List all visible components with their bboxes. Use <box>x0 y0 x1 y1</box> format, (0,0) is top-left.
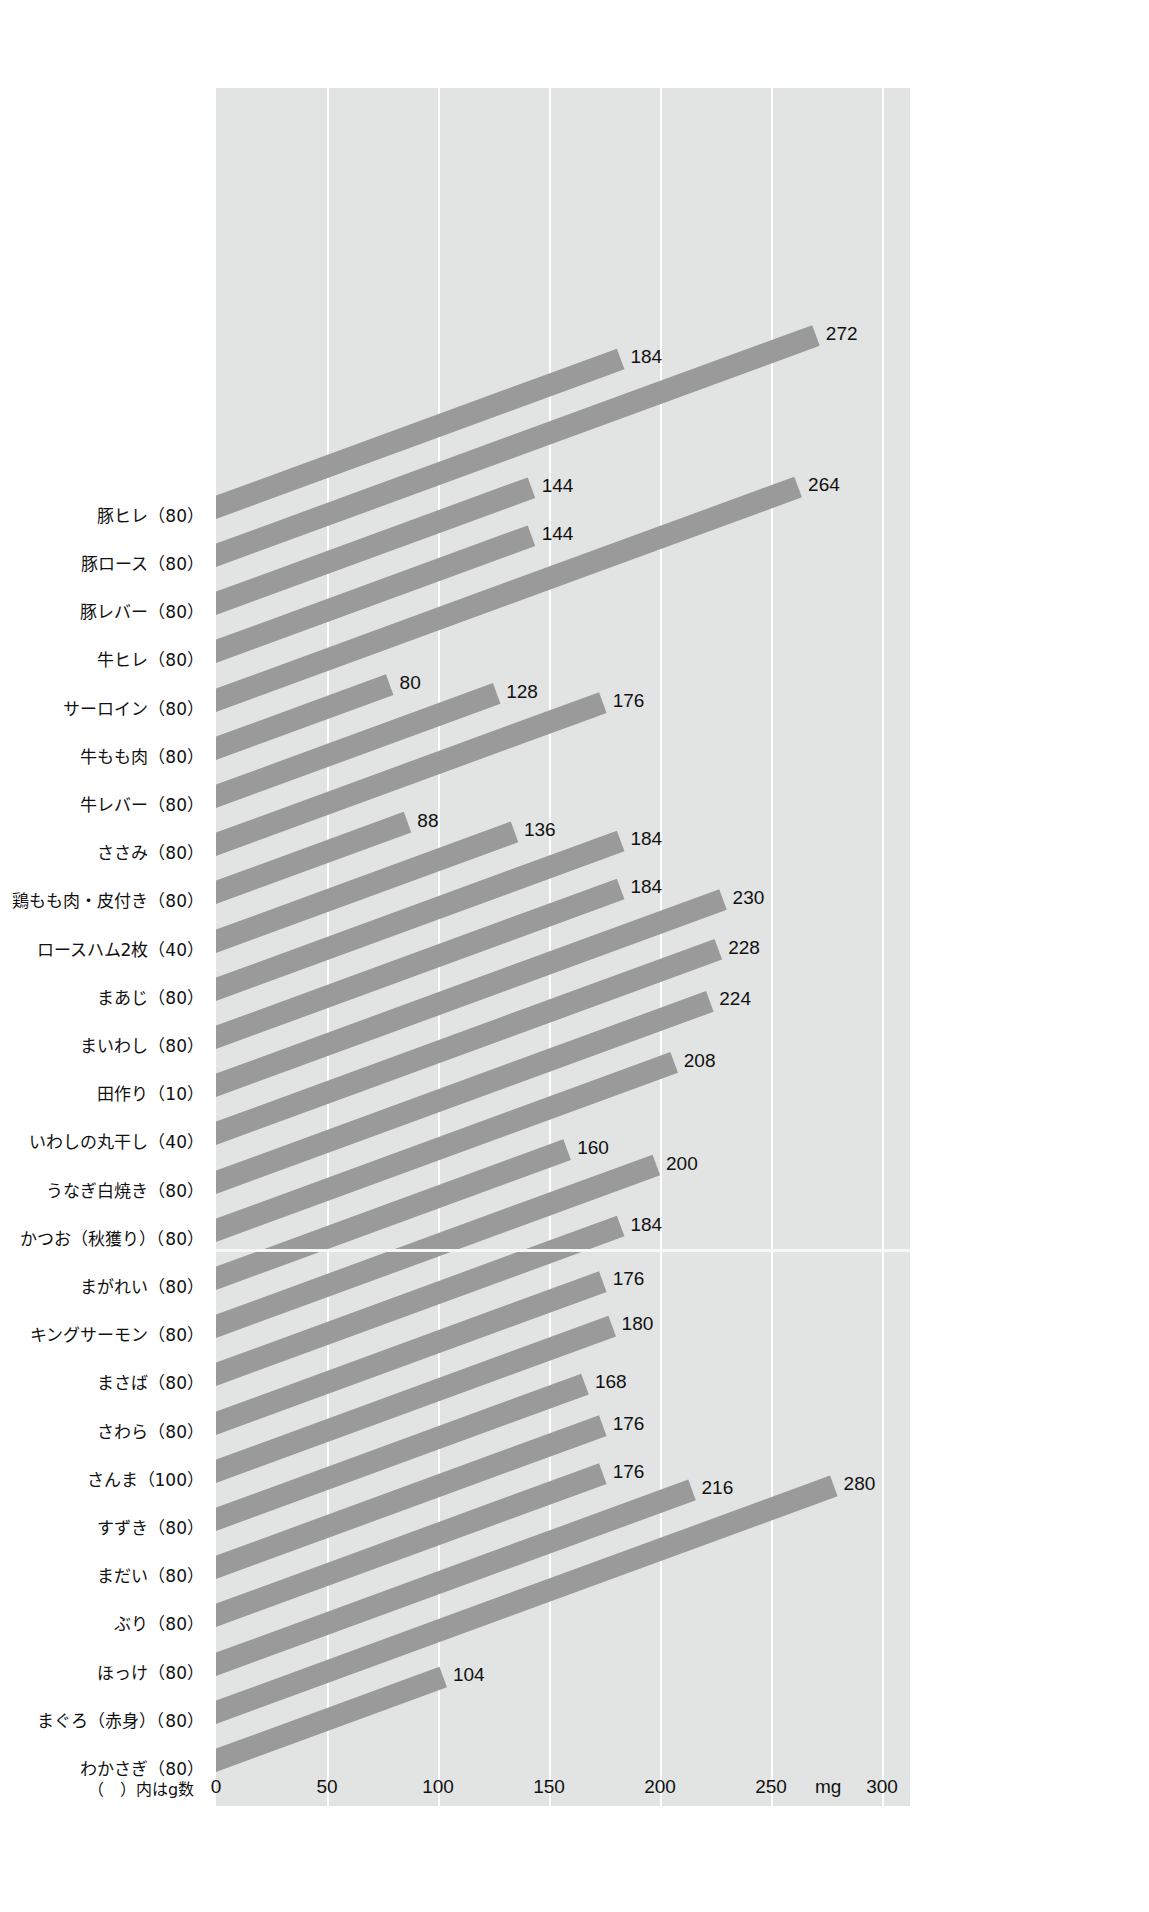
bar-row <box>216 1509 217 1531</box>
gridline-300 <box>882 88 884 1806</box>
bar-row <box>216 497 217 519</box>
x-axis-tick-50: 50 <box>316 1776 337 1798</box>
bar-value-label-18: 184 <box>630 1214 662 1236</box>
bar-value-label-16: 160 <box>577 1137 609 1159</box>
bar-row <box>216 1220 217 1242</box>
bar-row <box>216 738 217 760</box>
bar-value-label-1: 272 <box>826 323 858 345</box>
y-axis-label-4: サーロイン（80） <box>63 701 204 718</box>
y-axis-label-20: さんま（100） <box>87 1472 204 1489</box>
chart-page: 1842721441442648012817688136184184230228… <box>0 0 1149 1912</box>
bar-value-label-24: 216 <box>702 1477 734 1499</box>
bar-row <box>216 1461 217 1483</box>
bar-row <box>216 1702 217 1724</box>
y-axis-label-11: まいわし（80） <box>80 1038 204 1055</box>
bar-row <box>216 931 217 953</box>
y-axis-label-0: 豚ヒレ（80） <box>97 508 204 525</box>
y-axis-label-18: まさば（80） <box>97 1375 204 1392</box>
bar-row <box>216 834 217 856</box>
y-axis-label-23: ぶり（80） <box>114 1616 204 1633</box>
bar-value-label-5: 80 <box>400 672 421 694</box>
bar-value-label-8: 88 <box>417 810 438 832</box>
plot-artifact-streak <box>216 1249 910 1252</box>
bar-value-label-15: 208 <box>684 1050 716 1072</box>
bar-value-label-4: 264 <box>808 474 840 496</box>
x-axis-tick-300: 300 <box>866 1776 898 1798</box>
y-axis-label-22: まだい（80） <box>97 1568 204 1585</box>
y-axis-label-15: かつお（秋獲り）（80） <box>20 1231 204 1248</box>
bar-row <box>216 1413 217 1435</box>
y-axis-label-10: まあじ（80） <box>97 990 204 1007</box>
y-axis-label-21: すずき（80） <box>97 1520 204 1537</box>
bar-value-label-11: 184 <box>630 876 662 898</box>
bar-row <box>216 979 217 1001</box>
bar-value-label-7: 176 <box>613 690 645 712</box>
bar-row <box>216 1172 217 1194</box>
bar-value-label-12: 230 <box>733 887 765 909</box>
bar-value-label-23: 176 <box>613 1461 645 1483</box>
bar-row <box>216 641 217 663</box>
y-axis-label-2: 豚レバー（80） <box>80 604 204 621</box>
x-axis-unit-label: mg <box>815 1776 841 1798</box>
bar-row <box>216 1316 217 1338</box>
bar-row <box>216 1557 217 1579</box>
x-axis-tick-150: 150 <box>533 1776 565 1798</box>
bar-row <box>216 1268 217 1290</box>
bar-value-label-17: 200 <box>666 1153 698 1175</box>
x-axis-tick-100: 100 <box>422 1776 454 1798</box>
bar-value-label-19: 176 <box>613 1268 645 1290</box>
bar-row <box>216 690 217 712</box>
y-axis-label-25: まぐろ（赤身）（80） <box>37 1713 204 1730</box>
bar-row <box>216 1605 217 1627</box>
bar-value-label-2: 144 <box>542 475 574 497</box>
bar-row <box>216 1075 217 1097</box>
bar-row <box>216 1027 217 1049</box>
bar-value-label-9: 136 <box>524 819 556 841</box>
y-axis-label-6: 牛レバー（80） <box>80 797 204 814</box>
y-axis-label-14: うなぎ白焼き（80） <box>46 1183 204 1200</box>
bar-value-label-22: 176 <box>613 1413 645 1435</box>
y-axis-label-16: まがれい（80） <box>80 1279 204 1296</box>
bar-row <box>216 545 217 567</box>
y-axis-label-8: 鶏もも肉・皮付き（80） <box>12 893 204 910</box>
y-axis-label-17: キングサーモン（80） <box>30 1327 204 1344</box>
bar-value-label-10: 184 <box>630 828 662 850</box>
bar-value-label-13: 228 <box>728 937 760 959</box>
bar-value-label-25: 280 <box>844 1473 876 1495</box>
bar-row <box>216 593 217 615</box>
bar-value-label-3: 144 <box>542 523 574 545</box>
bar-row <box>216 1654 217 1676</box>
bar-row <box>216 786 217 808</box>
x-axis-tick-200: 200 <box>644 1776 676 1798</box>
x-axis-tick-0: 0 <box>211 1776 222 1798</box>
y-axis-label-19: さわら（80） <box>97 1424 204 1441</box>
bar-value-label-0: 184 <box>630 346 662 368</box>
y-axis-label-12: 田作り（10） <box>97 1086 204 1103</box>
bar-row <box>216 1123 217 1145</box>
bar-value-label-6: 128 <box>506 681 538 703</box>
right-margin <box>910 0 1149 1912</box>
bar-value-label-14: 224 <box>719 988 751 1010</box>
y-axis-label-13: いわしの丸干し（40） <box>29 1134 204 1151</box>
bar-row <box>216 1364 217 1386</box>
y-axis-labels: 豚ヒレ（80）豚ロース（80）豚レバー（80）牛ヒレ（80）サーロイン（80）牛… <box>0 0 210 1912</box>
bar-value-label-20: 180 <box>622 1313 654 1335</box>
bar-value-label-26: 104 <box>453 1664 485 1686</box>
y-axis-label-5: 牛もも肉（80） <box>80 749 204 766</box>
bar-row <box>216 1750 217 1772</box>
bar-value-label-21: 168 <box>595 1371 627 1393</box>
y-axis-label-1: 豚ロース（80） <box>81 556 204 573</box>
y-axis-label-9: ロースハム2枚（40） <box>37 942 204 959</box>
y-axis-label-3: 牛ヒレ（80） <box>97 652 204 669</box>
x-axis-tick-250: 250 <box>755 1776 787 1798</box>
gram-note-label: （ ）内はg数 <box>88 1776 194 1800</box>
y-axis-label-7: ささみ（80） <box>97 845 204 862</box>
y-axis-label-24: ほっけ（80） <box>97 1665 204 1682</box>
bar-row <box>216 882 217 904</box>
